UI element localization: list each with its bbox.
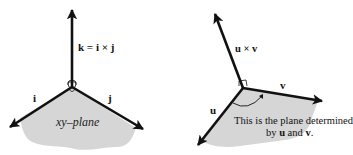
caption-period: . (311, 127, 314, 138)
right-diagram: u × v v u This is the plane determined b… (198, 14, 353, 147)
caption-by: by (266, 127, 279, 138)
label-j: j (107, 92, 112, 104)
left-diagram: k = i × j i j xy–plane (10, 10, 143, 150)
label-u-cross-v: u × v (235, 43, 258, 54)
label-v: v (280, 79, 286, 91)
cross-product-figure: k = i × j i j xy–plane u × v v u This is… (0, 0, 353, 155)
caption-and: and (285, 127, 305, 138)
caption-line-1: This is the plane determined (234, 115, 353, 126)
caption-line-2: by u and v. (266, 127, 313, 138)
label-xy-plane: xy–plane (55, 115, 100, 129)
label-k-equals-i-cross-j: k = i × j (78, 41, 114, 53)
label-i: i (33, 92, 36, 104)
label-u: u (210, 104, 216, 116)
